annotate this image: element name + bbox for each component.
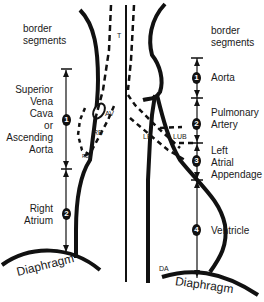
left-segment-1-badge: 1 (62, 114, 71, 126)
right-lower-bronchus-label: RBL (82, 152, 92, 160)
label-line: Atrium (24, 215, 53, 227)
right-heading: border segments (211, 25, 254, 49)
label-line: Pulmonary (211, 107, 259, 119)
left-heading-line-2: segments (23, 35, 66, 47)
label-line: Left (211, 145, 262, 157)
right-segment-3-label: Left Atrial Appendage (211, 145, 262, 181)
left-segment-2-label: Right Atrium (24, 203, 53, 227)
right-heading-line-2: segments (211, 37, 254, 49)
right-segment-4-badge: 4 (192, 224, 201, 236)
label-line: Vena (6, 96, 53, 108)
left-segment-1-label: Superior Vena Cava or Ascending Aorta (6, 84, 53, 156)
label-line: Appendage (211, 169, 262, 181)
label-line: Atrial (211, 157, 262, 169)
descending-aorta-label: DA (159, 265, 169, 273)
right-bronchus-label: RB (93, 129, 103, 137)
trachea-label: T (117, 32, 121, 40)
right-segment-2-badge: 2 (192, 118, 201, 130)
label-line: Artery (211, 119, 259, 131)
label-line: Right (24, 203, 53, 215)
right-segment-1-badge: 1 (192, 72, 201, 84)
label-line: Superior (6, 84, 53, 96)
left-bronchus-label: LB (143, 133, 152, 141)
left-heading-line-1: border (23, 23, 66, 35)
right-heading-line-1: border (211, 25, 254, 37)
right-segment-1-label: Aorta (211, 72, 235, 84)
label-line: Cava (6, 108, 53, 120)
label-line: Aorta (6, 144, 53, 156)
right-segment-4-label: Ventricle (211, 225, 249, 237)
label-line: or (6, 120, 53, 132)
azygos-vein-label: AV (105, 110, 114, 118)
left-heading: border segments (23, 23, 66, 47)
left-upper-bronchus-label: LUB (173, 133, 187, 141)
right-segment-3-badge: 3 (192, 155, 201, 167)
cardiac-border-diagram: border segments Superior Vena Cava or As… (0, 0, 264, 302)
label-line: Ventricle (211, 225, 249, 237)
right-segment-2-label: Pulmonary Artery (211, 107, 259, 131)
label-line: Aorta (211, 72, 235, 84)
left-segment-2-badge: 2 (62, 208, 71, 220)
label-line: Ascending (6, 132, 53, 144)
